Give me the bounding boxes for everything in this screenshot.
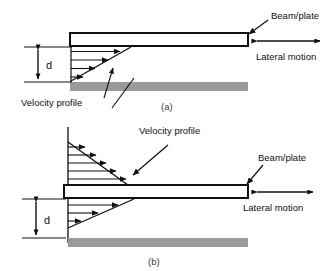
- figure-svg: d Velocity profile Beam/plate Lateral mo…: [0, 0, 336, 271]
- gap-label-a: d: [46, 59, 52, 71]
- beam-plate-b: [64, 185, 248, 198]
- gap-label-b: d: [44, 214, 50, 226]
- beam-plate-a: [70, 33, 248, 46]
- figure-container: d Velocity profile Beam/plate Lateral mo…: [0, 0, 336, 271]
- substrate-b: [68, 238, 248, 247]
- substrate-a: [70, 82, 248, 91]
- beam-plate-label-a: Beam/plate: [271, 10, 319, 21]
- panel-caption-a: (a): [161, 101, 173, 112]
- lateral-motion-label-b: Lateral motion: [243, 202, 303, 213]
- lateral-motion-label-a: Lateral motion: [256, 51, 316, 62]
- velocity-profile-label-b: Velocity profile: [139, 125, 200, 136]
- panel-caption-b: (b): [148, 256, 160, 267]
- beam-plate-label-b: Beam/plate: [258, 152, 306, 163]
- velocity-profile-label-a: Velocity profile: [21, 97, 82, 108]
